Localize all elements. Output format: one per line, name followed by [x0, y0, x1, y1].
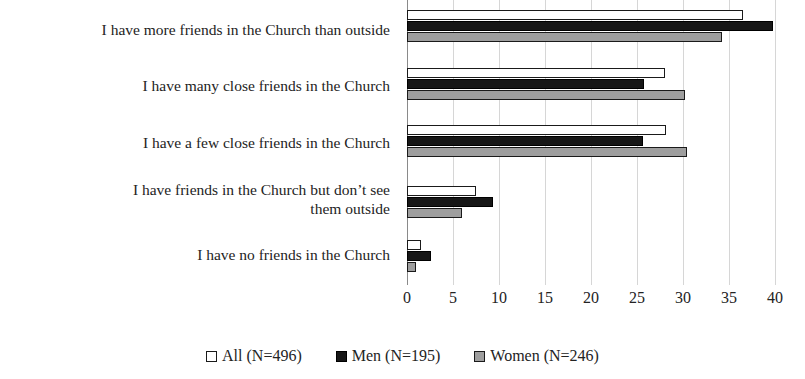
grouped-bar-chart: I have more friends in the Church than o…	[0, 0, 805, 379]
bar-women	[407, 262, 416, 272]
white-square-icon	[206, 351, 217, 362]
gray-square-icon	[474, 351, 485, 362]
category-axis-labels: I have more friends in the Church than o…	[0, 0, 398, 285]
bar-men	[407, 197, 493, 207]
x-tick-label-35: 35	[721, 289, 737, 307]
bar-group	[407, 6, 775, 46]
legend-item-0[interactable]: All (N=496)	[206, 347, 302, 365]
bar-men	[407, 136, 643, 146]
bar-men	[407, 21, 773, 31]
legend-item-2[interactable]: Women (N=246)	[474, 347, 599, 365]
x-tick-label-10: 10	[491, 289, 507, 307]
bar-women	[407, 208, 462, 218]
bar-all	[407, 68, 665, 78]
bar-women	[407, 90, 685, 100]
x-tick-label-25: 25	[629, 289, 645, 307]
chart-legend: All (N=496)Men (N=195)Women (N=246)	[0, 347, 805, 365]
gridline-40	[775, 0, 776, 285]
category-label-3: I have friends in the Church but don’t s…	[0, 180, 390, 218]
category-label-3-line1: I have friends in the Church but don’t s…	[133, 181, 390, 198]
x-tick-label-15: 15	[537, 289, 553, 307]
legend-label-1: Men (N=195)	[352, 347, 441, 365]
bar-all	[407, 186, 476, 196]
bar-group	[407, 236, 775, 276]
bar-women	[407, 147, 687, 157]
x-tick-label-30: 30	[675, 289, 691, 307]
category-label-1: I have many close friends in the Church	[0, 76, 390, 95]
bar-group	[407, 121, 775, 161]
legend-item-1[interactable]: Men (N=195)	[336, 347, 441, 365]
black-square-icon	[336, 351, 347, 362]
category-label-4: I have no friends in the Church	[0, 245, 390, 264]
category-label-3-line2: them outside	[310, 200, 390, 217]
bar-group	[407, 64, 775, 104]
x-tick-label-0: 0	[403, 289, 411, 307]
bar-men	[407, 79, 644, 89]
x-tick-label-20: 20	[583, 289, 599, 307]
bar-all	[407, 125, 666, 135]
legend-label-0: All (N=496)	[222, 347, 302, 365]
category-label-0: I have more friends in the Church than o…	[0, 20, 390, 39]
bar-group	[407, 182, 775, 222]
bar-all	[407, 240, 421, 250]
x-axis: 0510152025303540	[407, 285, 775, 315]
x-tick-label-40: 40	[767, 289, 783, 307]
bar-men	[407, 251, 431, 261]
x-tick-label-5: 5	[449, 289, 457, 307]
plot-area	[407, 0, 775, 285]
bar-women	[407, 32, 722, 42]
bar-all	[407, 10, 743, 20]
legend-label-2: Women (N=246)	[490, 347, 599, 365]
category-label-2: I have a few close friends in the Church	[0, 133, 390, 152]
